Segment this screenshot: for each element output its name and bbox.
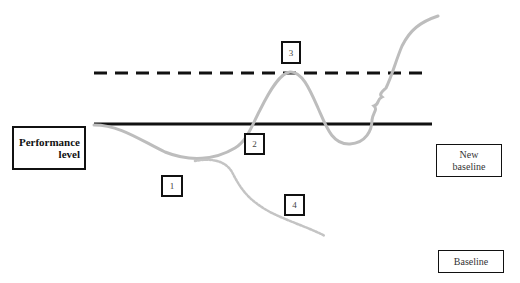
decline-branch-curve [195,160,325,236]
marker-1-text: 1 [170,181,175,191]
baseline-text: Baseline [454,256,488,267]
marker-4: 4 [284,194,305,216]
new-baseline-text: New baseline [453,149,486,173]
performance-level-label: Performance level [12,126,86,170]
new-baseline-label: New baseline [436,144,502,177]
marker-1: 1 [161,175,183,197]
performance-level-text: Performance level [19,136,80,160]
marker-3-text: 3 [289,48,294,58]
baseline-label: Baseline [438,250,504,273]
marker-4-text: 4 [292,200,297,210]
marker-2-text: 2 [252,139,257,149]
marker-2: 2 [244,133,265,155]
performance-curve [94,16,438,158]
marker-3: 3 [281,41,301,64]
